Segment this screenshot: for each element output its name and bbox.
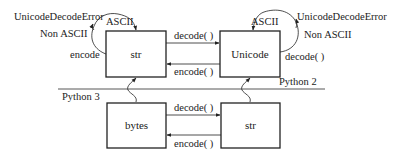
- py2-unicode-nonascii-label: Non ASCII: [304, 30, 352, 41]
- py2-unicode-ascii-label: ASCII: [251, 17, 278, 28]
- py3-encode-label: encode( ): [174, 139, 213, 150]
- py3-str-label: str: [221, 120, 280, 131]
- py2-str-label: str: [106, 49, 166, 60]
- py2-decode-label: decode( ): [174, 31, 213, 42]
- py2-unicode-error-label: UnicodeDecodeError: [297, 12, 387, 23]
- python2-section-label: Python 2: [279, 77, 317, 88]
- py2-str-ascii-label: ASCII: [106, 17, 133, 28]
- py2-str-encode-call-label: encode: [70, 50, 100, 61]
- py2-str-nonascii-label: Non ASCII: [40, 29, 88, 40]
- unicode-to-str-connector: [242, 78, 251, 102]
- py3-decode-label: decode( ): [174, 103, 213, 114]
- py2-unicode-label: Unicode: [220, 49, 280, 60]
- py2-unicode-decode-call-label: decode( ): [285, 52, 324, 63]
- python3-section-label: Python 3: [62, 92, 100, 103]
- py2-str-error-label: UnicodeDecodeError: [14, 12, 104, 23]
- str-to-bytes-connector: [128, 78, 137, 102]
- py2-encode-label: encode( ): [174, 67, 213, 78]
- py3-bytes-label: bytes: [107, 120, 166, 131]
